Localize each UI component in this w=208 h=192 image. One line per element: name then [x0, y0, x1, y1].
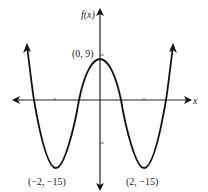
- min-right-label: (2, −15): [126, 176, 158, 188]
- max-point-label: (0, 9): [72, 48, 94, 60]
- y-axis-label: f(x): [81, 9, 96, 21]
- min-left-label: (−2, −15): [28, 176, 66, 188]
- x-axis: [14, 98, 190, 100]
- function-graph: f(x) x (0, 9) (−2, −15) (2, −15): [0, 0, 208, 192]
- x-axis-label: x: [192, 95, 198, 106]
